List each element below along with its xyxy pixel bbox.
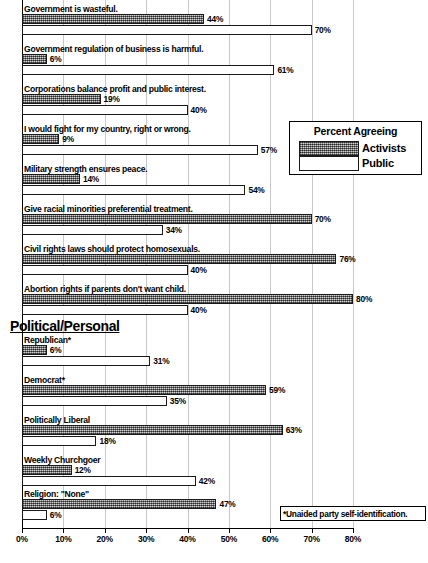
bar-value-activists: 63% <box>286 425 302 435</box>
bar-value-activists: 14% <box>83 174 99 184</box>
bar-public <box>22 65 274 75</box>
bar-activists <box>22 14 204 24</box>
legend-swatch-activists <box>299 141 359 156</box>
gridline-40 <box>188 0 189 529</box>
legend-swatch-public <box>299 156 359 171</box>
bar-value-public: 34% <box>166 225 182 235</box>
bar-activists <box>22 174 80 184</box>
bar-value-public: 40% <box>191 105 207 115</box>
bar-value-public: 40% <box>191 265 207 275</box>
bar-value-public: 70% <box>315 25 331 35</box>
bar-row-label: I would fight for my country, right or w… <box>24 124 191 134</box>
bar-activists <box>22 499 216 509</box>
bar-value-public: 54% <box>248 185 264 195</box>
x-tick-label-0: 0% <box>16 534 28 544</box>
bar-value-activists: 9% <box>62 134 74 144</box>
bar-value-public: 31% <box>153 356 169 366</box>
bar-activists <box>22 254 336 264</box>
bar-public <box>22 225 163 235</box>
x-tick-label-20: 20% <box>97 534 113 544</box>
bar-public <box>22 305 188 315</box>
percent-agreeing-bar-chart: 0%10%20%30%40%50%60%70%80% Government is… <box>0 0 428 563</box>
x-tick-label-30: 30% <box>138 534 154 544</box>
bar-row-label: Democrat* <box>24 375 65 385</box>
bar-value-public: 57% <box>261 145 277 155</box>
x-tick-70 <box>312 529 313 533</box>
bar-public <box>22 105 188 115</box>
bar-public <box>22 436 96 446</box>
x-tick-label-10: 10% <box>55 534 71 544</box>
x-tick-50 <box>229 529 230 533</box>
bar-row-label: Military strength ensures peace. <box>24 164 147 174</box>
x-tick-80 <box>353 529 354 533</box>
bar-row-label: Government is wasteful. <box>24 4 118 14</box>
bar-public <box>22 185 245 195</box>
bar-value-activists: 47% <box>219 499 235 509</box>
bar-activists <box>22 54 47 64</box>
bar-value-activists: 19% <box>104 94 120 104</box>
section-header-political-personal: Political/Personal <box>10 318 120 334</box>
bar-activists <box>22 385 266 395</box>
bar-value-activists: 59% <box>269 385 285 395</box>
bar-value-activists: 6% <box>50 345 62 355</box>
bar-public <box>22 396 167 406</box>
bar-public <box>22 145 258 155</box>
bar-public <box>22 476 196 486</box>
bar-value-public: 6% <box>50 510 62 520</box>
x-tick-60 <box>270 529 271 533</box>
bar-row-label: Government regulation of business is har… <box>24 44 203 54</box>
x-tick-10 <box>63 529 64 533</box>
bar-value-activists: 80% <box>356 294 372 304</box>
bar-value-public: 35% <box>170 396 186 406</box>
bar-activists <box>22 134 59 144</box>
bar-activists <box>22 345 47 355</box>
legend-label-public: Public <box>362 157 394 169</box>
x-tick-label-40: 40% <box>179 534 195 544</box>
x-tick-label-60: 60% <box>262 534 278 544</box>
x-tick-label-80: 80% <box>345 534 361 544</box>
bar-row-label: Politically Liberal <box>24 415 90 425</box>
bar-row-label: Abortion rights if parents don't want ch… <box>24 284 186 294</box>
x-tick-0 <box>22 529 23 533</box>
bar-value-public: 61% <box>277 65 293 75</box>
bar-public <box>22 356 150 366</box>
x-tick-label-70: 70% <box>303 534 319 544</box>
x-tick-40 <box>188 529 189 533</box>
bar-public <box>22 25 312 35</box>
bar-activists <box>22 465 72 475</box>
x-tick-30 <box>146 529 147 533</box>
plot-area: 0%10%20%30%40%50%60%70%80% Government is… <box>0 0 428 535</box>
gridline-70 <box>312 0 313 529</box>
bar-value-public: 40% <box>191 305 207 315</box>
bar-value-activists: 6% <box>50 54 62 64</box>
bar-value-activists: 44% <box>207 14 223 24</box>
bar-row-label: Republican* <box>24 335 71 345</box>
bar-value-public: 18% <box>99 436 115 446</box>
bar-public <box>22 510 47 520</box>
bar-row-label: Civil rights laws should protect homosex… <box>24 244 200 254</box>
legend-title: Percent Agreeing <box>290 125 421 137</box>
x-tick-label-50: 50% <box>221 534 237 544</box>
bar-row-label: Corporations balance profit and public i… <box>24 84 206 94</box>
gridline-60 <box>270 0 271 529</box>
bar-activists <box>22 294 353 304</box>
bar-value-activists: 12% <box>75 465 91 475</box>
bar-public <box>22 265 188 275</box>
bar-value-activists: 76% <box>339 254 355 264</box>
x-tick-20 <box>105 529 106 533</box>
bar-activists <box>22 425 283 435</box>
footnote-box: *Unaided party self-identification. <box>280 506 426 521</box>
bar-value-public: 42% <box>199 476 215 486</box>
bar-value-activists: 70% <box>315 214 331 224</box>
legend-label-activists: Activists <box>362 142 406 154</box>
gridline-80 <box>353 0 354 529</box>
bar-activists <box>22 94 101 104</box>
bar-row-label: Weekly Churchgoer <box>24 455 100 465</box>
bar-row-label: Give racial minorities preferential trea… <box>24 204 193 214</box>
bar-row-label: Religion: "None" <box>24 489 89 499</box>
bar-activists <box>22 214 312 224</box>
legend: Percent Agreeing Activists Public <box>289 121 422 175</box>
footnote-text: *Unaided party self-identification. <box>283 508 407 520</box>
gridline-50 <box>229 0 230 529</box>
